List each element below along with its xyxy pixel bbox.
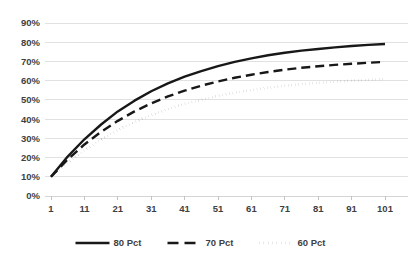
y-axis-tick-label: 60%: [21, 75, 41, 86]
y-axis-tick-label: 20%: [21, 152, 41, 163]
legend-label-80-pct: 80 Pct: [114, 237, 143, 248]
x-axis-tick-label: 41: [179, 203, 190, 214]
y-axis-tick-labels: 0%10%20%30%40%50%60%70%80%90%: [21, 17, 41, 201]
legend-label-60-pct: 60 Pct: [298, 237, 327, 248]
y-axis-tick-label: 70%: [21, 56, 41, 67]
chart-legend: 80 Pct70 Pct60 Pct: [76, 237, 327, 248]
y-axis-tick-label: 40%: [21, 114, 41, 125]
x-axis-tick-label: 91: [346, 203, 357, 214]
x-axis-tick-label: 71: [280, 203, 291, 214]
y-axis-tick-label: 0%: [26, 190, 40, 201]
x-axis-tick-label: 21: [113, 203, 124, 214]
chart-container: 0%10%20%30%40%50%60%70%80%90% 1112131415…: [0, 0, 415, 262]
series-line-60-pct: [51, 79, 385, 177]
x-axis-tick-marks: [51, 196, 385, 200]
y-axis-tick-label: 10%: [21, 171, 41, 182]
gridlines: [45, 23, 408, 196]
legend-label-70-pct: 70 Pct: [206, 237, 235, 248]
x-axis-tick-label: 1: [48, 203, 54, 214]
line-chart: 0%10%20%30%40%50%60%70%80%90% 1112131415…: [0, 0, 415, 262]
x-axis-tick-label: 81: [313, 203, 324, 214]
y-axis-tick-label: 80%: [21, 37, 41, 48]
y-axis-tick-label: 90%: [21, 17, 41, 28]
y-axis-tick-label: 30%: [21, 133, 41, 144]
y-axis-tick-label: 50%: [21, 94, 41, 105]
x-axis-tick-label: 11: [79, 203, 90, 214]
x-axis-tick-label: 61: [246, 203, 257, 214]
x-axis-tick-label: 51: [213, 203, 224, 214]
x-axis-tick-label: 31: [146, 203, 157, 214]
data-series: [51, 44, 385, 177]
x-axis-tick-label: 101: [377, 203, 394, 214]
x-axis-tick-labels: 1112131415161718191101: [48, 203, 393, 214]
